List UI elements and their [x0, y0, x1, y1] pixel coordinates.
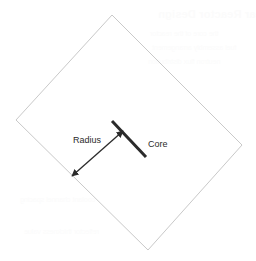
diagram-canvas: Radius Core [0, 0, 256, 261]
diamond-outline [16, 15, 242, 250]
core-line [112, 121, 146, 157]
figure-root: Nuclear Reactor Design the core of the r… [0, 0, 256, 261]
core-label: Core [148, 139, 168, 149]
radius-label: Radius [73, 135, 102, 145]
